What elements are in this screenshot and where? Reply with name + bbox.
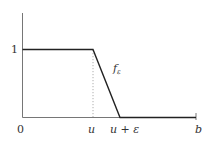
function-label: fε: [112, 62, 121, 76]
x-label-b: b: [195, 123, 202, 136]
piecewise-function-diagram: 1 fε 0 u u + ε b: [0, 0, 213, 150]
x-label-u: u: [88, 123, 95, 136]
y-tick-label-1: 1: [11, 43, 18, 56]
function-subscript: ε: [117, 68, 121, 76]
x-label-u-plus-eps: u + ε: [110, 123, 139, 136]
x-label-origin: 0: [17, 123, 24, 136]
function-curve: [23, 50, 197, 118]
